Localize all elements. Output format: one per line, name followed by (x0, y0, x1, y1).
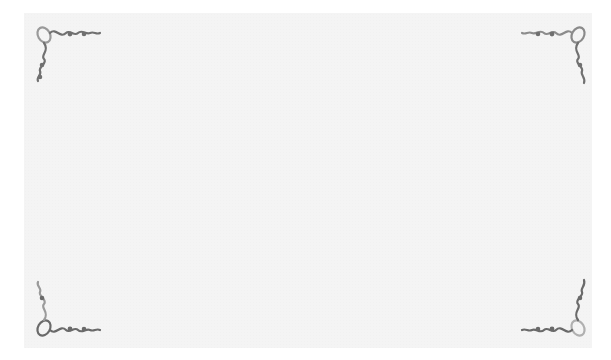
flourish-icon (512, 272, 592, 342)
corner-flourish-top-left (30, 21, 110, 91)
flourish-icon (30, 21, 110, 91)
corner-flourish-bottom-left (30, 272, 110, 342)
corner-flourish-bottom-right (512, 272, 592, 342)
flourish-icon (512, 21, 592, 91)
decorative-card (24, 13, 592, 348)
corner-flourish-top-right (512, 21, 592, 91)
flourish-icon (30, 272, 110, 342)
